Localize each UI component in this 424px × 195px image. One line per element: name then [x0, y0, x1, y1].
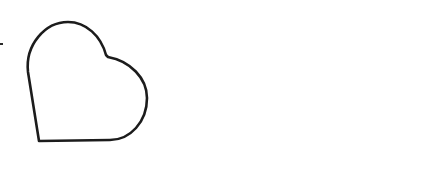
drawing-canvas [0, 0, 424, 195]
heart-outline-path [28, 22, 147, 141]
heart-icon [0, 0, 424, 195]
